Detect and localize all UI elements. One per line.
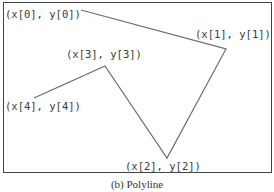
point-label-4: (x[4], y[4]) [5,100,81,112]
point-label-2: (x[2], y[2]) [125,160,201,172]
polyline-diagram: (x[0], y[0]) (x[1], y[1]) (x[2], y[2]) (… [0,0,274,192]
point-label-3: (x[3], y[3]) [66,48,142,60]
figure-caption: (b) Polyline [111,178,163,191]
point-label-1: (x[1], y[1]) [195,28,271,40]
point-label-0: (x[0], y[0]) [5,8,81,20]
polyline-figure: (x[0], y[0]) (x[1], y[1]) (x[2], y[2]) (… [0,0,274,192]
